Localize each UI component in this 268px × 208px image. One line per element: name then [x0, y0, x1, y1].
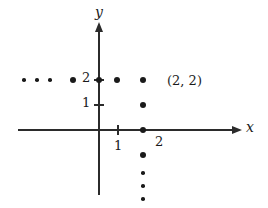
ellipsis-dot [48, 78, 52, 82]
point-label-2-2: (2, 2) [167, 73, 202, 88]
y-tick-label: 1 [82, 95, 90, 110]
x-axis-line [18, 129, 232, 131]
ellipsis-dot [35, 78, 39, 82]
coordinate-plot: x y 112 (2, 2) 2 [0, 0, 268, 208]
y-tick-mark [94, 104, 104, 106]
y-axis-label: y [95, 4, 103, 20]
x-axis-label: x [246, 119, 254, 135]
y-tick-label: 2 [82, 70, 90, 85]
ellipsis-dot [22, 78, 26, 82]
data-point [140, 152, 146, 158]
data-point [114, 77, 120, 83]
ellipsis-dot [141, 171, 145, 175]
data-point [70, 77, 76, 83]
data-point [96, 77, 102, 83]
x-tick-mark [117, 125, 119, 135]
data-point [140, 127, 146, 133]
ellipsis-dot [141, 184, 145, 188]
data-point [140, 77, 146, 83]
y-axis-arrow-icon [95, 22, 103, 32]
ellipsis-dot [141, 197, 145, 201]
x-tick-label: 1 [114, 138, 122, 153]
x-axis-arrow-icon [232, 126, 242, 134]
data-point [140, 102, 146, 108]
y-axis-line [98, 32, 100, 195]
x-value-label-2: 2 [155, 134, 163, 149]
